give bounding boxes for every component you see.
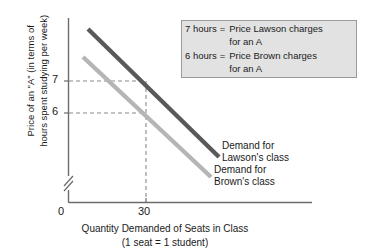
annotation-equals-lawson: = [220, 22, 230, 35]
y-axis-title: Price of an "A" (in terms of hours spent… [25, 0, 51, 166]
y-axis-break-mark-2 [64, 181, 73, 191]
annotation-row-lawson: 7 hours = Price Lawson charges [185, 22, 323, 35]
annotation-description-brown-line2: for an A [229, 62, 322, 75]
series-label-brown: Demand for Brown's class [214, 164, 275, 188]
annotation-description-lawson: Price Lawson charges [229, 22, 322, 35]
y-axis-tick-label-7: 7 [52, 73, 58, 86]
y-axis-break-mark [64, 176, 73, 186]
y-axis-tick-label-6: 6 [52, 105, 58, 118]
x-axis-title-main: Quantity Demanded of Seats in Class [0, 222, 330, 236]
y-axis-title-line2: hours spent studying per week) [38, 0, 51, 166]
x-axis-tick-label-30: 30 [138, 205, 150, 218]
annotation-description-brown: Price Brown charges [229, 49, 322, 62]
annotation-equals-brown: = [220, 49, 230, 62]
x-axis-title-sub: (1 seat = 1 student) [0, 236, 330, 250]
annotation-hours-brown: 6 hours [185, 49, 220, 62]
annotation-hours-lawson: 7 hours [185, 22, 220, 35]
annotation-spacer-2 [220, 35, 230, 48]
annotation-spacer-3 [185, 62, 220, 75]
annotation-row-brown-cont: for an A [185, 62, 323, 75]
series-label-lawson: Demand for Lawson's class [222, 140, 289, 164]
x-axis-tick-label-0: 0 [58, 205, 64, 218]
series-label-lawson-line1: Demand for [222, 140, 289, 152]
series-label-brown-line2: Brown's class [214, 176, 275, 188]
annotation-spacer-4 [220, 62, 230, 75]
x-axis-title: Quantity Demanded of Seats in Class (1 s… [0, 222, 330, 249]
demand-curve-chart: 7 6 0 30 Price of an "A" (in terms of ho… [0, 0, 365, 252]
annotation-description-lawson-line2: for an A [229, 35, 322, 48]
series-label-brown-line1: Demand for [214, 164, 275, 176]
annotation-row-lawson-cont: for an A [185, 35, 323, 48]
annotation-spacer-1 [185, 35, 220, 48]
y-axis-title-line1: Price of an "A" (in terms of [25, 0, 38, 166]
annotation-text: 7 hours = Price Lawson charges for an A … [185, 22, 323, 76]
series-label-lawson-line2: Lawson's class [222, 152, 289, 164]
annotation-row-brown: 6 hours = Price Brown charges [185, 49, 323, 62]
